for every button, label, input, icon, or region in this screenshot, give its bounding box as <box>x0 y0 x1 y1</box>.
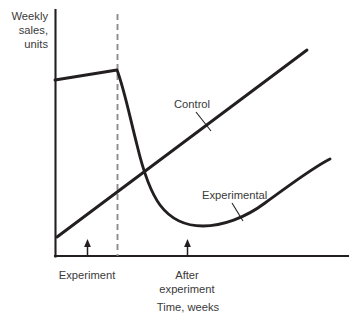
x-axis-title: Time, weeks <box>157 301 220 313</box>
marker-label-experiment: Experiment <box>59 269 116 281</box>
chart-figure: Control Experimental Weekly sales, units… <box>0 0 360 323</box>
chart-canvas: Control Experimental Weekly sales, units… <box>0 0 360 323</box>
y-axis-title-line-1: Weekly <box>12 10 49 22</box>
series-line-experimental <box>55 70 330 226</box>
y-axis-title-line-3: units <box>24 38 48 50</box>
after-experiment-arrow-head <box>184 239 191 247</box>
marker-label-after-line-2: experiment <box>159 283 215 295</box>
series-label-experimental: Experimental <box>202 189 267 201</box>
y-axis-title-line-2: sales, <box>19 24 48 36</box>
series-line-control <box>57 50 307 237</box>
series-label-control: Control <box>174 98 210 110</box>
marker-label-after-line-1: After <box>175 269 199 281</box>
experiment-arrow-head <box>84 239 91 247</box>
